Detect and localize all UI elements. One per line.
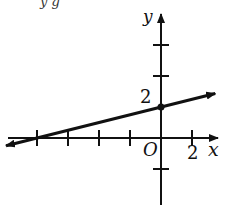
coordinate-plane <box>0 0 235 205</box>
origin-label: O <box>143 141 158 159</box>
y-axis-label: y <box>143 8 153 25</box>
y-intercept-point <box>158 104 165 111</box>
y-tick-label-2: 2 <box>140 88 151 106</box>
x-axis-label: x <box>208 140 219 159</box>
x-tick-label-2: 2 <box>187 144 198 162</box>
